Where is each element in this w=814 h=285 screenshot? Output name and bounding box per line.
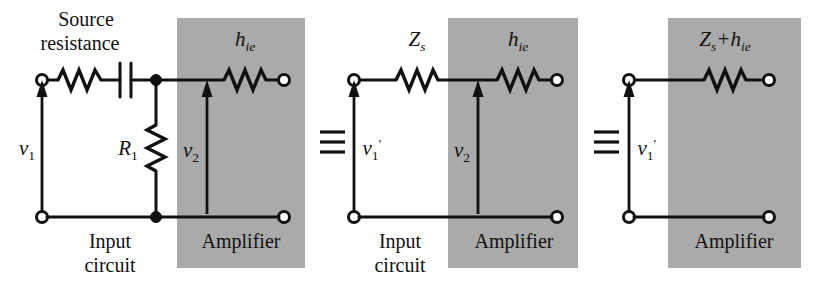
r1-label: R1: [117, 136, 138, 163]
zs-resistor: [396, 70, 438, 90]
circuit-figure: Source resistance hie: [0, 0, 814, 285]
equivalence-symbol-2: [594, 132, 619, 152]
v2-subscript: 2: [192, 150, 199, 165]
r1-subscript: 1: [131, 148, 138, 163]
v1prime-mark-3: ′: [654, 136, 657, 151]
hie-subscript: ie: [245, 39, 255, 54]
junction-node-bottom-1: [151, 212, 162, 223]
source-resistance-label-line2: resistance: [41, 32, 120, 54]
amplifier-label-3: Amplifier: [695, 230, 774, 253]
zs-subscript: s: [420, 39, 425, 54]
source-resistance-label-line1: Source: [58, 8, 114, 30]
zs-plus-hie-h: h: [730, 27, 741, 51]
hie-symbol-2: h: [508, 27, 519, 51]
junction-node-top-1: [151, 75, 162, 86]
amplifier-label-2: Amplifier: [475, 230, 554, 253]
v1-label: v1: [19, 136, 35, 163]
hie-symbol: h: [235, 27, 246, 51]
hie-subscript-2: ie: [518, 39, 528, 54]
input-circuit-label-1-line1: Input: [89, 230, 132, 253]
zs-symbol: Z: [409, 27, 421, 51]
equivalence-symbol-1: [320, 132, 345, 152]
r1-symbol: R: [117, 136, 131, 160]
output-terminal-top-2[interactable]: [552, 75, 563, 86]
source-resistance-resistor: [58, 70, 101, 90]
zs-plus-hie-hsub: ie: [741, 39, 751, 54]
v1prime-subscript-2: 1: [372, 148, 379, 163]
input-circuit-label-1-line2: circuit: [84, 254, 136, 276]
input-circuit-label-2-line2: circuit: [374, 254, 426, 276]
input-circuit-label-2-line1: Input: [379, 230, 422, 253]
r1-resistor: [147, 125, 165, 171]
v1prime-mark-2: ′: [379, 136, 382, 151]
v1-subscript: 1: [28, 148, 35, 163]
circuit-diagram-svg: Source resistance hie: [0, 0, 814, 285]
amplifier-label-1: Amplifier: [202, 230, 281, 253]
v1prime-subscript-3: 1: [647, 148, 654, 163]
v1prime-label-3: v1′: [637, 136, 656, 163]
v2-subscript-2: 2: [463, 150, 470, 165]
zs-plus-hie-z: Z: [699, 27, 711, 51]
zs-label: Zs: [409, 27, 426, 54]
output-terminal-top-3[interactable]: [764, 75, 775, 86]
output-terminal-top-1[interactable]: [279, 75, 290, 86]
v1prime-label-2: v1′: [362, 136, 381, 163]
zs-plus-hie-plus: +: [716, 27, 730, 51]
